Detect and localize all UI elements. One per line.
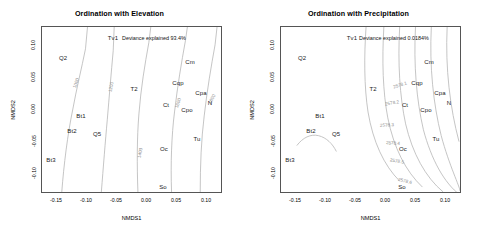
ytick-label: 0.10: [267, 42, 277, 48]
contour-lines-elevation: [42, 27, 221, 192]
axis-title-x: NMDS1: [41, 215, 222, 221]
point-label: Bt3: [46, 157, 55, 163]
point-label: Cm: [424, 59, 434, 65]
ytick-label: 0.00: [267, 106, 277, 112]
contour-label: 2578.3: [380, 122, 394, 128]
ytick-label: -0.10: [28, 170, 40, 176]
axis-title-y: NMDS2: [8, 26, 18, 193]
point-label: T2: [369, 86, 376, 92]
ytick-label: -0.10: [267, 170, 279, 176]
xtick-label: 0.00: [380, 197, 390, 203]
ytick-label: 0.05: [28, 74, 38, 80]
point-label: Q2: [59, 55, 67, 61]
point-label: Tu: [433, 136, 440, 142]
panel-title-elevation: Ordination with Elevation: [0, 9, 239, 18]
point-label: Cqp: [172, 80, 183, 86]
xtick-label: 0.10: [201, 197, 211, 203]
xtick-label: -0.10: [319, 197, 331, 203]
point-label: Oc: [399, 146, 407, 152]
xtick-label: 0.00: [141, 197, 151, 203]
ytick-label: 0.00: [28, 106, 38, 112]
point-label: T2: [130, 86, 137, 92]
panel-elevation: Ordination with Elevation 1000 1200 1400…: [0, 0, 239, 235]
point-label: So: [398, 184, 406, 190]
axis-title-x: NMDS1: [280, 215, 461, 221]
xtick-label: 0.05: [171, 197, 181, 203]
xtick-label: -0.15: [50, 197, 62, 203]
point-label: Cm: [185, 59, 195, 65]
xtick-label: -0.05: [110, 197, 122, 203]
xtick-label: -0.10: [80, 197, 92, 203]
point-label: Bt1: [76, 113, 85, 119]
point-label: Bt2: [306, 128, 315, 134]
point-label: Tv1: [347, 35, 357, 41]
point-label: N: [208, 100, 212, 106]
point-label: Cpa: [434, 90, 445, 96]
point-label: Ct: [402, 102, 408, 108]
point-label: N: [447, 100, 451, 106]
xtick-label: -0.05: [349, 197, 361, 203]
panel-title-precipitation: Ordination with Precipitation: [239, 9, 478, 18]
deviance-explained-precipitation: Deviance explained 0.0184%: [359, 35, 429, 41]
point-label: Tu: [194, 136, 201, 142]
point-label: Cpa: [195, 90, 206, 96]
plot-area-precipitation: 2578.1 2578.2 2578.3 2578.4 2578.5 2578.…: [280, 26, 461, 193]
point-label: Bt2: [67, 128, 76, 134]
xtick-label: -0.15: [289, 197, 301, 203]
point-label: Ct: [163, 102, 169, 108]
ordination-figure: Ordination with Elevation 1000 1200 1400…: [0, 0, 478, 235]
xtick-label: 0.05: [410, 197, 420, 203]
point-label: So: [159, 184, 167, 190]
point-label: Q5: [93, 131, 101, 137]
point-label: Cpo: [181, 107, 192, 113]
panel-precipitation: Ordination with Precipitation 2578.1 257…: [239, 0, 478, 235]
axis-title-y: NMDS2: [247, 26, 257, 193]
point-label: Q2: [298, 55, 306, 61]
contour-lines-precipitation: [281, 27, 460, 192]
ytick-label: -0.05: [267, 138, 279, 144]
point-label: Cpo: [420, 107, 431, 113]
ytick-label: 0.10: [28, 42, 38, 48]
point-label: Bt1: [315, 113, 324, 119]
point-label: Tv1: [108, 35, 118, 41]
point-label: Oc: [160, 146, 168, 152]
plot-area-elevation: 1000 1200 1400 1600 1800 Deviance explai…: [41, 26, 222, 193]
point-label: Bt3: [285, 157, 294, 163]
point-label: Q5: [332, 131, 340, 137]
point-label: Cqp: [411, 80, 422, 86]
contour-label: 2578.4: [386, 140, 400, 146]
ytick-label: -0.05: [28, 138, 40, 144]
xtick-label: 0.10: [440, 197, 450, 203]
deviance-explained-elevation: Deviance explained 93.4%: [122, 35, 186, 41]
ytick-label: 0.05: [267, 74, 277, 80]
